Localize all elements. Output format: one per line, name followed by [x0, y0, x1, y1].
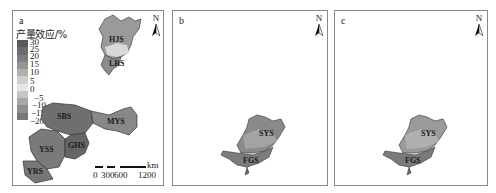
region-label-fgs: FGS: [405, 156, 421, 165]
scale-unit: km: [147, 160, 159, 170]
map-regions-a: [13, 11, 165, 187]
region-label-sys: SYS: [421, 129, 436, 138]
scale-bar: km 0 300 600 1200: [93, 163, 163, 183]
scale-label: 0: [93, 170, 98, 180]
scale-label: 600: [114, 170, 128, 180]
region-label-sys: SYS: [259, 129, 274, 138]
map-panel-a: a N 产量效应/% 30 25 20 15 10 5 0 −5 −10 −15…: [12, 10, 164, 186]
region-label-hjs: HJS: [109, 35, 124, 44]
region-label-sbs: SBS: [57, 112, 71, 121]
region-label-fgs: FGS: [243, 156, 259, 165]
map-panel-c: c N SYS FGS: [334, 10, 488, 186]
region-label-yss: YSS: [39, 145, 54, 154]
region-label-lrs: LRS: [109, 59, 125, 68]
scale-label: 300: [101, 170, 115, 180]
region-label-mys: MYS: [107, 117, 125, 126]
region-label-ghs: GHS: [68, 141, 85, 150]
scale-label: 1200: [138, 170, 156, 180]
region-label-yrs: YRS: [27, 167, 43, 176]
map-panel-b: b N SYS FGS: [172, 10, 328, 186]
